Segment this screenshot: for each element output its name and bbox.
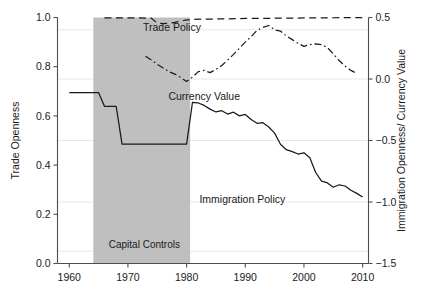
y-axis-title: Trade Openness — [9, 102, 21, 180]
y2-ticklabel: −0.5 — [376, 134, 397, 146]
chart-canvas: 0.00.20.40.60.81.0−1.5−1.0−0.50.00.51960… — [0, 0, 423, 296]
currency-value-label: Currency Value — [168, 90, 240, 102]
y-ticklabel: 0.6 — [36, 110, 51, 122]
y-ticklabel: 1.0 — [36, 11, 51, 23]
y-ticklabel: 0.2 — [36, 208, 51, 220]
y2-ticklabel: −1.0 — [376, 196, 397, 208]
x-ticklabel: 1970 — [116, 271, 140, 283]
x-ticklabel: 2010 — [351, 271, 375, 283]
x-ticklabel: 1960 — [58, 271, 82, 283]
chart-figure: 0.00.20.40.60.81.0−1.5−1.0−0.50.00.51960… — [0, 0, 423, 296]
shaded-region-capital-controls — [93, 18, 190, 264]
y2-ticklabel: 0.0 — [376, 73, 391, 85]
x-ticklabel: 1990 — [234, 271, 258, 283]
x-ticklabel: 2000 — [292, 271, 316, 283]
trade-policy-label: Trade Policy — [143, 21, 202, 33]
y-ticklabel: 0.0 — [36, 257, 51, 269]
y2-axis-title: Immigration Openness/ Currency Value — [395, 49, 407, 232]
capital-controls-label: Capital Controls — [109, 239, 180, 250]
x-ticklabel: 1980 — [175, 271, 199, 283]
y2-ticklabel: 0.5 — [376, 11, 391, 23]
y-ticklabel: 0.8 — [36, 60, 51, 72]
y-ticklabel: 0.4 — [36, 159, 51, 171]
shaded-band — [93, 18, 190, 264]
y2-ticklabel: −1.5 — [376, 257, 397, 269]
immigration-policy-label: Immigration Policy — [199, 193, 286, 205]
